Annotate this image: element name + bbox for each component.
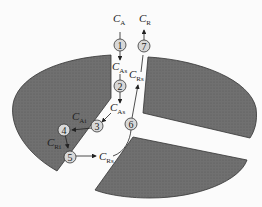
step-1-marker: 1	[114, 39, 126, 51]
svg-text:2: 2	[118, 81, 123, 92]
reaction-diagram: 1 2 3 4 5 6 7 CA CR CAs CRs CAs CAi CRi …	[0, 0, 262, 207]
step-6-marker: 6	[125, 118, 137, 130]
label-CAs-mid: CAs	[110, 101, 125, 116]
pellet-right-sector	[143, 57, 257, 138]
svg-text:1: 1	[118, 40, 123, 51]
step-5-marker: 5	[64, 151, 76, 163]
label-CA: CA	[113, 12, 125, 27]
svg-text:4: 4	[62, 125, 67, 136]
label-CRs-bottom: CRs	[99, 150, 114, 165]
pellet-bottom-sector	[95, 137, 247, 198]
label-CRs-top: CRs	[129, 68, 144, 83]
step-7-marker: 7	[138, 40, 150, 52]
step-3-marker: 3	[91, 120, 103, 132]
step-4-marker: 4	[58, 124, 70, 136]
label-CAs-top: CAs	[112, 60, 127, 75]
svg-text:3: 3	[95, 121, 100, 132]
svg-text:7: 7	[142, 41, 147, 52]
svg-text:6: 6	[129, 119, 134, 130]
pellet-left-sector	[13, 55, 111, 171]
diagram-canvas: 1 2 3 4 5 6 7 CA CR CAs CRs CAs CAi CRi …	[0, 0, 262, 207]
label-CR: CR	[139, 12, 151, 27]
step-2-marker: 2	[114, 80, 126, 92]
svg-text:5: 5	[68, 152, 73, 163]
